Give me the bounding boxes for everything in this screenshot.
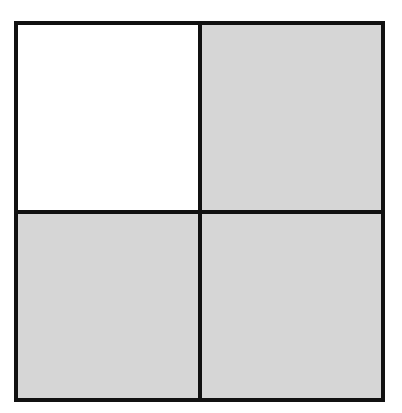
- fraction-grid: [14, 21, 385, 402]
- cell-bottom-left: [18, 214, 198, 399]
- cell-top-right: [202, 25, 382, 210]
- cell-top-left: [18, 25, 198, 210]
- cell-bottom-right: [202, 214, 382, 399]
